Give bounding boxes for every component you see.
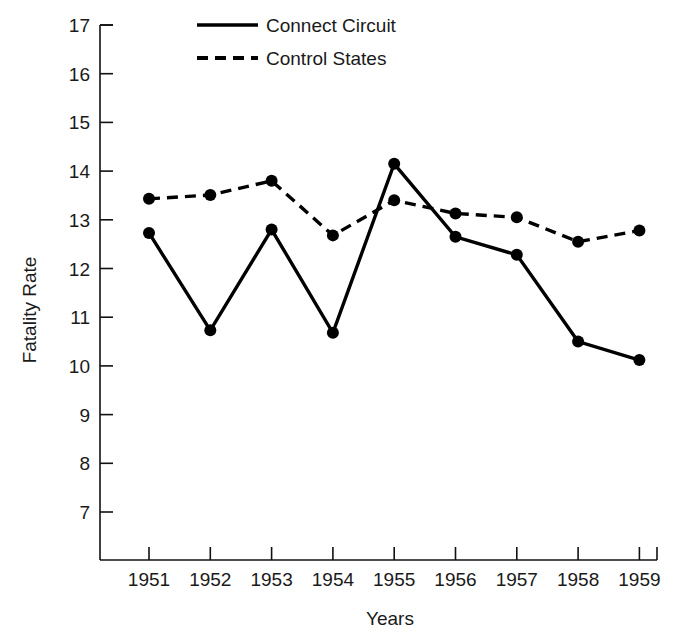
y-tick-label-16: 16 (69, 64, 90, 85)
data-point-control-states-1953 (266, 175, 278, 187)
line-chart: 7891011121314151617 19511952195319541955… (0, 0, 679, 639)
y-tick-label-12: 12 (69, 259, 90, 280)
x-tick-label-1953: 1953 (250, 569, 292, 590)
y-axis-ticks (100, 25, 113, 512)
data-point-control-states-1951 (143, 193, 155, 205)
data-point-control-states-1957 (511, 211, 523, 223)
legend-label-connect-circuit: Connect Circuit (266, 15, 397, 36)
data-point-control-states-1955 (388, 194, 400, 206)
x-axis-ticks (149, 547, 657, 560)
y-tick-label-11: 11 (70, 307, 90, 328)
x-axis-title: Years (366, 608, 414, 629)
data-point-connect-circuit-1958 (572, 336, 584, 348)
data-point-connect-circuit-1957 (511, 249, 523, 261)
data-point-control-states-1958 (572, 236, 584, 248)
series-line-control-states (149, 181, 639, 242)
y-tick-label-14: 14 (69, 161, 91, 182)
y-axis-title: Fatality Rate (19, 257, 40, 364)
y-tick-label-9: 9 (79, 405, 90, 426)
data-point-control-states-1959 (633, 225, 645, 237)
x-tick-label-1955: 1955 (373, 569, 415, 590)
chart-figure: 7891011121314151617 19511952195319541955… (0, 0, 679, 639)
data-point-connect-circuit-1954 (327, 327, 339, 339)
data-point-connect-circuit-1952 (204, 324, 216, 336)
x-tick-label-1956: 1956 (434, 569, 476, 590)
x-axis-tick-labels: 195119521953195419551956195719581959 (128, 569, 661, 590)
x-tick-label-1954: 1954 (312, 569, 355, 590)
data-point-connect-circuit-1959 (633, 354, 645, 366)
y-tick-label-15: 15 (69, 112, 90, 133)
y-tick-label-17: 17 (69, 15, 90, 36)
y-tick-label-10: 10 (69, 356, 90, 377)
y-axis-tick-labels: 7891011121314151617 (69, 15, 91, 523)
data-point-connect-circuit-1956 (450, 231, 462, 243)
data-point-control-states-1954 (327, 229, 339, 241)
chart-legend: Connect Circuit Control States (197, 15, 397, 69)
y-tick-label-13: 13 (69, 210, 90, 231)
data-point-control-states-1956 (450, 207, 462, 219)
x-tick-label-1951: 1951 (128, 569, 170, 590)
y-tick-label-7: 7 (79, 502, 90, 523)
x-tick-label-1957: 1957 (496, 569, 538, 590)
data-point-connect-circuit-1955 (388, 158, 400, 170)
y-tick-label-8: 8 (79, 453, 90, 474)
x-tick-label-1952: 1952 (189, 569, 231, 590)
data-point-connect-circuit-1953 (266, 224, 278, 236)
x-tick-label-1959: 1959 (618, 569, 660, 590)
x-tick-label-1958: 1958 (557, 569, 599, 590)
data-point-control-states-1952 (204, 189, 216, 201)
legend-label-control-states: Control States (266, 48, 386, 69)
data-point-connect-circuit-1951 (143, 227, 155, 239)
series-layer (143, 158, 645, 366)
